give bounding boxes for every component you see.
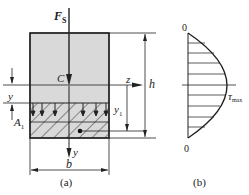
caption-a: (a) xyxy=(60,176,73,189)
y-axis-label: y xyxy=(72,146,78,158)
centroid-label: C xyxy=(57,72,65,84)
bottom-zero-label: 0 xyxy=(184,143,189,154)
parabolic-distribution-curve xyxy=(188,33,227,138)
width-label: b xyxy=(66,157,72,171)
figure-b: 0 0 τmax (b) xyxy=(182,22,242,189)
figure-a: FS C z y A1 y1 h y b (a) xyxy=(3,8,156,189)
z-axis-arrow xyxy=(132,83,143,88)
area-label: A1 xyxy=(13,116,25,131)
z-axis-label: z xyxy=(125,73,131,85)
top-zero-label: 0 xyxy=(182,22,187,33)
tau-max-label: τmax xyxy=(228,90,242,103)
shear-stress-diagram: FS C z y A1 y1 h y b (a) 0 0 τmax xyxy=(0,0,249,195)
y1-label: y1 xyxy=(113,103,123,118)
caption-b: (b) xyxy=(193,176,206,189)
force-label: FS xyxy=(53,9,67,25)
y-dim-label: y xyxy=(7,90,13,102)
height-label: h xyxy=(149,77,155,91)
